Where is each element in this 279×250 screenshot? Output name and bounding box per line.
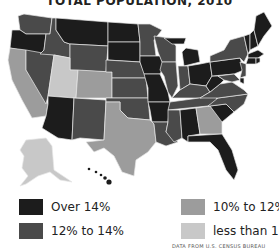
us-choropleth-map xyxy=(0,0,279,195)
state-me xyxy=(254,12,272,46)
legend-item-12-to-14: 12% to 14% xyxy=(19,223,124,239)
source-caption: DATA FROM U.S. CENSUS BUREAU xyxy=(172,243,265,249)
legend-swatch-10-to-12 xyxy=(181,199,205,215)
legend-label: 12% to 14% xyxy=(51,224,124,238)
state-nd xyxy=(108,22,140,42)
state-ak xyxy=(20,138,72,186)
state-ri xyxy=(256,58,260,64)
legend-swatch-less-than-10 xyxy=(181,223,205,239)
legend-label: Over 14% xyxy=(51,200,110,214)
legend-item-less-than-10: less than 10% xyxy=(181,223,279,239)
state-mt xyxy=(56,18,108,46)
state-de xyxy=(240,78,244,84)
state-wa xyxy=(18,14,52,34)
legend-item-10-to-12: 10% to 12% xyxy=(181,199,279,215)
state-ct xyxy=(246,58,256,64)
legend-swatch-over-14 xyxy=(19,199,43,215)
state-wy xyxy=(70,44,108,72)
legend-item-over-14: Over 14% xyxy=(19,199,110,215)
state-nm xyxy=(72,98,106,140)
state-hi xyxy=(88,168,112,185)
state-ma xyxy=(248,50,264,58)
state-sd xyxy=(108,42,140,62)
state-ks xyxy=(112,78,148,98)
legend-swatch-12-to-14 xyxy=(19,223,43,239)
legend-label: 10% to 12% xyxy=(213,200,279,214)
state-co xyxy=(76,70,112,98)
state-ar xyxy=(148,102,170,122)
state-fl xyxy=(188,134,238,180)
state-ny xyxy=(210,36,248,62)
legend-label: less than 10% xyxy=(213,224,279,238)
